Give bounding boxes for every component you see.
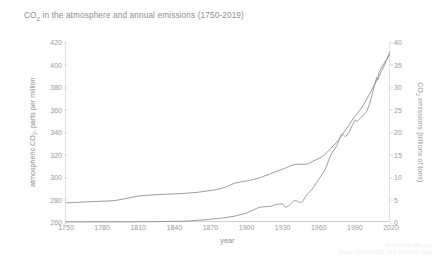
y-axis-right-tick: 5 bbox=[394, 196, 398, 203]
x-axis-tick: 1900 bbox=[239, 224, 255, 231]
chart-title-main: in the atmosphere and annual emissions (… bbox=[43, 11, 244, 20]
x-axis-tick: 1750 bbox=[58, 224, 74, 231]
y-axis-left-tick: 340 bbox=[50, 129, 62, 136]
x-axis-tick: 1810 bbox=[130, 224, 146, 231]
y-axis-right-label-suffix: emissions (billions of tons) bbox=[416, 96, 425, 182]
x-axis-tick: 1990 bbox=[347, 224, 363, 231]
y-axis-right-tick: 10 bbox=[394, 174, 402, 181]
y-axis-left-label-suffix: , parts per million bbox=[27, 77, 36, 132]
concentration-curve bbox=[66, 52, 390, 203]
y-axis-right-label: CO2 emissions (billions of tons) bbox=[414, 42, 426, 222]
x-axis-tick: 1930 bbox=[275, 224, 291, 231]
y-axis-left-tick: 400 bbox=[50, 61, 62, 68]
x-axis-tick: 1960 bbox=[311, 224, 327, 231]
y-axis-left-tick: 280 bbox=[50, 196, 62, 203]
y-axis-right-tick: 15 bbox=[394, 151, 402, 158]
y-axis-left-tick: 300 bbox=[50, 174, 62, 181]
data-curves bbox=[66, 42, 391, 222]
y-axis-right-tick: 30 bbox=[394, 84, 402, 91]
y-axis-left-tick: 320 bbox=[50, 151, 62, 158]
y-axis-left-label: atmospheric CO2, parts per million bbox=[27, 42, 38, 222]
chart-title: CO2 in the atmosphere and annual emissio… bbox=[24, 11, 244, 22]
emissions-curve bbox=[66, 56, 390, 222]
chart-title-prefix: CO bbox=[24, 11, 37, 20]
chart-title-subscript: 2 bbox=[37, 16, 41, 22]
x-axis-tick: 1780 bbox=[94, 224, 110, 231]
x-axis-tick: 2020 bbox=[383, 224, 399, 231]
y-axis-left-tick: 420 bbox=[50, 39, 62, 46]
x-axis-tick: 1870 bbox=[203, 224, 219, 231]
plot-area: 260280300320340360380400420 051015202530… bbox=[65, 42, 390, 222]
y-axis-right-tick: 25 bbox=[394, 106, 402, 113]
y-axis-left-label-prefix: atmospheric CO bbox=[27, 135, 36, 187]
y-axis-right-tick: 40 bbox=[394, 39, 402, 46]
x-axis-tick: 1840 bbox=[167, 224, 183, 231]
y-axis-right-label-prefix: CO bbox=[416, 82, 425, 93]
y-axis-left-label-subscript: 2 bbox=[32, 132, 38, 135]
y-axis-left-tick: 360 bbox=[50, 106, 62, 113]
y-axis-right-tick: 35 bbox=[394, 61, 402, 68]
x-axis-label: year bbox=[65, 236, 390, 245]
credit-line-2: Data: NOAA NCEI, Our World in Data bbox=[339, 248, 432, 256]
y-axis-left-tick: 380 bbox=[50, 84, 62, 91]
co2-chart: CO2 in the atmosphere and annual emissio… bbox=[0, 0, 440, 273]
y-axis-right-tick: 20 bbox=[394, 129, 402, 136]
